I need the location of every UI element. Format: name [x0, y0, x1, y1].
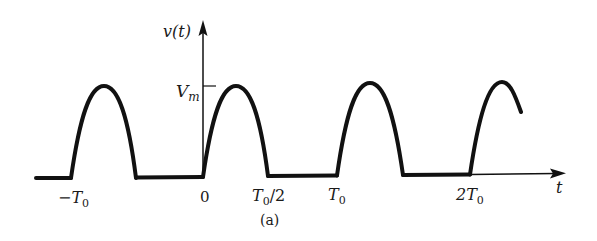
- pulse-1: [71, 86, 136, 178]
- amplitude-label: Vm: [176, 81, 200, 104]
- tick-label-neg-t0: −T0: [58, 188, 89, 210]
- half-wave-rectified-figure: v(t) Vm −T0 0 T0/2 T0 2T0 t (a): [0, 0, 597, 241]
- pulse-2: [203, 86, 268, 177]
- tick-label-t0: T0: [328, 185, 346, 207]
- time-axis: [470, 169, 566, 179]
- tick-label-half-t0: T0/2: [252, 186, 285, 208]
- tick-label-zero: 0: [200, 188, 210, 206]
- pulse-3: [337, 83, 403, 176]
- pulse-4: [470, 82, 521, 175]
- x-axis-label: t: [556, 178, 563, 197]
- tick-label-two-t0: 2T0: [455, 185, 484, 207]
- figure-caption: (a): [260, 212, 279, 228]
- baseline-seg-2: [136, 177, 203, 178]
- waveform: [36, 82, 521, 178]
- baseline-seg-4: [403, 175, 470, 176]
- baseline-seg-3: [268, 176, 337, 177]
- y-axis-label: v(t): [163, 22, 191, 41]
